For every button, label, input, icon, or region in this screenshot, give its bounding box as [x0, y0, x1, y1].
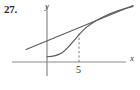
slant-asymptote-line	[26, 6, 133, 50]
s-shaped-curve	[47, 6, 133, 56]
x-axis-label: x	[129, 53, 134, 63]
x-tick-label-5: 5	[76, 64, 81, 75]
graph-plot: x y 5	[0, 0, 140, 90]
figure-container: 27. x y 5	[0, 0, 140, 90]
y-axis-label: y	[44, 1, 49, 11]
